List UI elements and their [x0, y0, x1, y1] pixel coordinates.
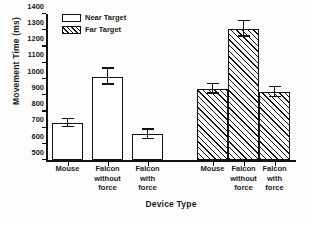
- x-category-label-line: Mouse: [48, 164, 87, 174]
- x-category-label-line: with: [128, 174, 167, 184]
- error-bar-cap-upper: [238, 20, 250, 21]
- x-category-label-line: Falcon: [255, 164, 294, 174]
- y-tick-mark: [42, 45, 46, 46]
- y-axis-tick-labels: 50060070080090010001100120013001400: [20, 14, 44, 162]
- legend-swatch-open: [62, 14, 81, 22]
- error-bar-cap-lower: [102, 83, 114, 84]
- x-category-label: Falconwithforce: [255, 164, 294, 193]
- y-tick-mark: [42, 143, 46, 144]
- error-bar-cap-upper: [269, 86, 281, 87]
- y-tick-label: 1200: [20, 35, 44, 43]
- x-category-label-line: force: [88, 183, 127, 193]
- bar-far-falcon-without-force: [228, 29, 259, 161]
- x-category-label-line: without: [88, 174, 127, 184]
- x-category-label: Mouse: [48, 164, 87, 174]
- x-category-label-line: Falcon: [128, 164, 167, 174]
- y-tick-mark: [42, 62, 46, 63]
- x-category-label-line: force: [128, 183, 167, 193]
- y-tick-label: 700: [20, 117, 44, 125]
- x-axis-title: Device Type: [46, 199, 296, 209]
- legend-item: Near Target: [62, 12, 172, 23]
- legend-label: Near Target: [85, 14, 126, 22]
- y-tick-label: 800: [20, 100, 44, 108]
- legend-label: Far Target: [85, 26, 121, 34]
- x-category-label-line: force: [255, 183, 294, 193]
- legend-item: Far Target: [62, 24, 172, 35]
- error-bar-line: [107, 69, 108, 85]
- x-category-label-line: Falcon: [88, 164, 127, 174]
- plot-area: [46, 14, 296, 162]
- y-tick-label: 500: [20, 149, 44, 157]
- y-tick-label: 900: [20, 84, 44, 92]
- bar-near-falcon-without-force: [92, 77, 123, 161]
- error-bar-cap-lower: [207, 92, 219, 93]
- bar-far-falcon-with-force: [259, 92, 290, 160]
- y-tick-label: 1100: [20, 52, 44, 60]
- x-category-label: Falconwithforce: [128, 164, 167, 193]
- error-bar-cap-upper: [62, 118, 74, 119]
- y-tick-mark: [42, 29, 46, 30]
- y-tick-mark: [42, 94, 46, 95]
- y-tick-mark: [42, 127, 46, 128]
- movement-time-bar-chart: Movement Time (ms) 500600700800900100011…: [0, 0, 310, 225]
- y-tick-mark: [42, 110, 46, 111]
- bar-far-mouse: [197, 89, 228, 161]
- x-axis-category-labels: MouseFalconwithoutforceFalconwithforceMo…: [46, 164, 296, 198]
- x-axis-line: [46, 160, 296, 162]
- y-tick-mark: [42, 78, 46, 79]
- error-bar-cap-upper: [207, 83, 219, 84]
- error-bar-cap-lower: [269, 96, 281, 97]
- error-bar-cap-lower: [238, 35, 250, 36]
- bar-near-mouse: [52, 123, 83, 160]
- y-tick-label: 600: [20, 133, 44, 141]
- error-bar-cap-lower: [142, 138, 154, 139]
- y-tick-label: 1000: [20, 68, 44, 76]
- y-axis-line: [46, 14, 48, 162]
- x-category-label: Falconwithoutforce: [88, 164, 127, 193]
- error-bar-cap-lower: [62, 126, 74, 127]
- y-tick-mark: [42, 159, 46, 160]
- y-tick-label: 1300: [20, 19, 44, 27]
- chart-legend: Near TargetFar Target: [62, 12, 172, 36]
- y-tick-mark: [42, 13, 46, 14]
- error-bar-cap-upper: [102, 67, 114, 68]
- legend-swatch-hatched: [62, 26, 81, 34]
- y-tick-label: 1400: [20, 3, 44, 11]
- x-category-label-line: with: [255, 174, 294, 184]
- error-bar-cap-upper: [142, 128, 154, 129]
